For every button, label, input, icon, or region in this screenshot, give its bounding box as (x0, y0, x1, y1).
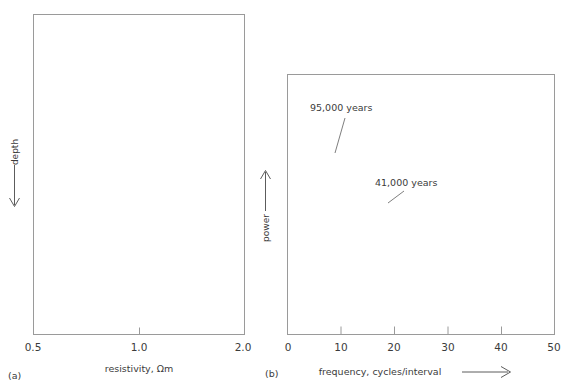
panel-a-xtick-label-2: 2.0 (235, 341, 252, 353)
panel-b-xtick-label-2: 20 (387, 341, 400, 353)
panel-a: 0.5 1.0 2.0 resistivity, Ωm depth (a) (8, 15, 251, 382)
panel-a-plot-frame (34, 15, 245, 335)
annotation-label-95000-years: 95,000 years (310, 102, 372, 113)
annotation-leader-line-41000-years (388, 191, 404, 203)
annotation-label-41000-years: 41,000 years (375, 177, 437, 188)
panel-b-xtick-label-0: 0 (285, 341, 292, 353)
figure-container: 0.5 1.0 2.0 resistivity, Ωm depth (a) (0, 0, 573, 387)
panel-b-letter: (b) (265, 368, 278, 379)
panel-b: 0 10 20 30 40 50 frequency, cycles/inter… (261, 75, 561, 380)
depth-down-arrow-icon (10, 165, 20, 207)
panel-b-xtick-label-3: 30 (441, 341, 454, 353)
panel-a-x-axis-title: resistivity, Ωm (105, 363, 174, 374)
panel-a-y-axis-title: depth (10, 139, 20, 165)
panel-a-xtick-label-1: 1.0 (131, 341, 148, 353)
panel-b-xtick-label-1: 10 (334, 341, 347, 353)
panel-b-xtick-label-4: 40 (494, 341, 507, 353)
panel-a-letter: (a) (8, 370, 21, 381)
frequency-right-arrow-icon (462, 367, 511, 378)
panel-b-plot-frame (288, 75, 555, 335)
annotation-leader-line-95000-years (335, 118, 345, 153)
panel-a-xtick-label-0: 0.5 (25, 341, 42, 353)
panel-b-xtick-label-5: 50 (547, 341, 560, 353)
figure-svg: 0.5 1.0 2.0 resistivity, Ωm depth (a) (0, 0, 573, 387)
power-up-arrow-icon (261, 171, 271, 212)
panel-b-x-axis-title: frequency, cycles/interval (319, 366, 442, 377)
panel-b-y-axis-title: power (261, 214, 271, 242)
